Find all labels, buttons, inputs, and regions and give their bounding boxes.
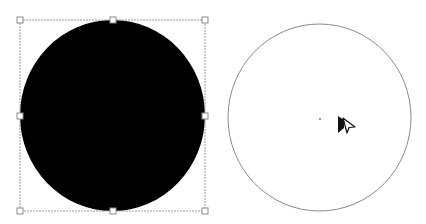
handle-middle-right[interactable] bbox=[202, 113, 208, 119]
filled-black-circle[interactable] bbox=[20, 20, 205, 211]
handle-top-center[interactable] bbox=[110, 17, 116, 23]
handle-middle-left[interactable] bbox=[17, 113, 23, 119]
handle-bottom-center[interactable] bbox=[110, 208, 116, 214]
drawing-canvas[interactable] bbox=[0, 0, 426, 224]
handle-bottom-left[interactable] bbox=[17, 208, 23, 214]
center-point-marker bbox=[319, 118, 321, 120]
outlined-circle[interactable] bbox=[228, 24, 411, 211]
handle-bottom-right[interactable] bbox=[202, 208, 208, 214]
handle-top-right[interactable] bbox=[202, 17, 208, 23]
handle-top-left[interactable] bbox=[17, 17, 23, 23]
